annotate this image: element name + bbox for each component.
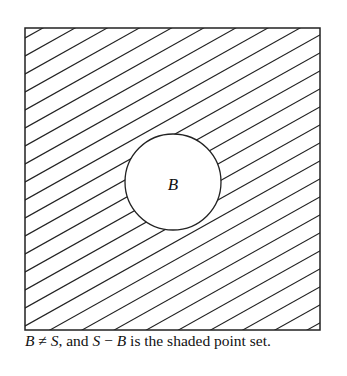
circle-label: B [168,175,179,194]
figure-caption: B ≠ S, and S − B is the shaded point set… [25,332,325,350]
venn-diagram: B [0,0,347,376]
